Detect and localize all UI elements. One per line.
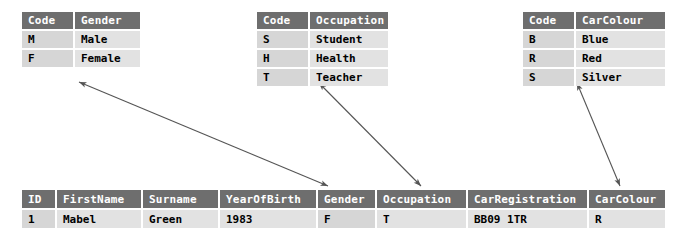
cell-carcolour: Red xyxy=(575,49,665,68)
cell-yearofbirth: 1983 xyxy=(219,209,317,228)
relationship-diagram: Code Gender M Male F Female Code Occupat… xyxy=(0,0,684,231)
table-row: S Student xyxy=(257,30,388,49)
cell-gender: F xyxy=(317,209,376,228)
table-row: H Health xyxy=(257,49,388,68)
carcolour-relationship-arrow xyxy=(577,83,620,186)
carcolour-lookup-table: Code CarColour B Blue R Red S Silver xyxy=(523,12,665,86)
cell-gender: Male xyxy=(74,30,140,49)
column-header-code: Code xyxy=(22,12,74,30)
column-header-gender: Gender xyxy=(317,190,376,209)
column-header-id: ID xyxy=(22,190,56,209)
column-header-firstname: FirstName xyxy=(56,190,142,209)
table-row: R Red xyxy=(523,49,665,68)
column-header-carregistration: CarRegistration xyxy=(467,190,588,209)
column-header-surname: Surname xyxy=(142,190,219,209)
occupation-lookup-table: Code Occupation S Student H Health T Tea… xyxy=(257,12,388,86)
table-row: B Blue xyxy=(523,30,665,49)
table-row: T Teacher xyxy=(257,68,388,86)
column-header-yearofbirth: YearOfBirth xyxy=(219,190,317,209)
table-header-row: Code Occupation xyxy=(257,12,388,30)
cell-code: R xyxy=(523,49,575,68)
cell-code: T xyxy=(257,68,309,86)
gender-lookup-table: Code Gender M Male F Female xyxy=(22,12,140,67)
table-header-row: Code CarColour xyxy=(523,12,665,30)
cell-occupation: Health xyxy=(309,49,388,68)
cell-code: S xyxy=(257,30,309,49)
column-header-carcolour: CarColour xyxy=(588,190,665,209)
table-row: F Female xyxy=(22,49,140,67)
column-header-code: Code xyxy=(257,12,309,30)
column-header-carcolour: CarColour xyxy=(575,12,665,30)
occupation-relationship-arrow xyxy=(319,83,421,186)
cell-carcolour: R xyxy=(588,209,665,228)
cell-id: 1 xyxy=(22,209,56,228)
cell-carcolour: Silver xyxy=(575,68,665,86)
cell-code: M xyxy=(22,30,74,49)
cell-firstname: Mabel xyxy=(56,209,142,228)
table-header-row: ID FirstName Surname YearOfBirth Gender … xyxy=(22,190,665,209)
cell-gender: Female xyxy=(74,49,140,67)
column-header-occupation: Occupation xyxy=(376,190,467,209)
cell-code: B xyxy=(523,30,575,49)
column-header-code: Code xyxy=(523,12,575,30)
cell-occupation: T xyxy=(376,209,467,228)
cell-carcolour: Blue xyxy=(575,30,665,49)
column-header-gender: Gender xyxy=(74,12,140,30)
table-row: S Silver xyxy=(523,68,665,86)
table-header-row: Code Gender xyxy=(22,12,140,30)
column-header-occupation: Occupation xyxy=(309,12,388,30)
gender-relationship-arrow xyxy=(79,82,328,186)
cell-carregistration: BB09 1TR xyxy=(467,209,588,228)
cell-code: F xyxy=(22,49,74,67)
cell-code: H xyxy=(257,49,309,68)
cell-occupation: Teacher xyxy=(309,68,388,86)
cell-code: S xyxy=(523,68,575,86)
person-records-table: ID FirstName Surname YearOfBirth Gender … xyxy=(22,190,665,228)
table-row: 1 Mabel Green 1983 F T BB09 1TR R xyxy=(22,209,665,228)
cell-surname: Green xyxy=(142,209,219,228)
cell-occupation: Student xyxy=(309,30,388,49)
table-row: M Male xyxy=(22,30,140,49)
